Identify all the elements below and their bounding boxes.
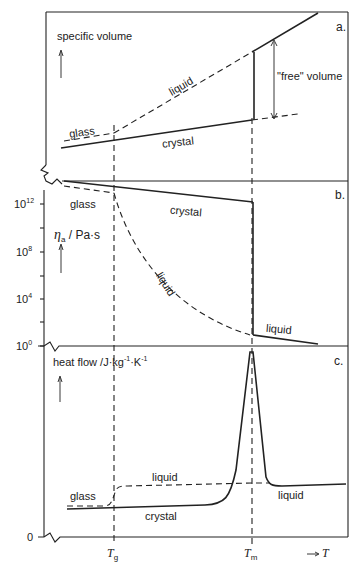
ytick-1e12: 1012 [14,198,34,210]
ytick-1e8: 108 [16,246,32,258]
panel-b-tag: b. [335,189,345,201]
panel-b-glass-label: glass [70,198,96,210]
panel-c-crystal-label: crystal [145,510,177,522]
free-volume-label: "free" volume [277,70,342,82]
panel-c-liquid-label: liquid [278,489,304,501]
ytick-1e4: 104 [16,293,32,305]
panel-a-ylabel: specific volume [57,30,132,42]
panel-c-y-zero: 0 [27,531,33,543]
panel-b-ylabel: ηa / Pa·s [54,229,100,241]
axis-break-icon [38,342,348,351]
liquid-line-b [253,335,318,344]
liquid-supercooled-a [114,52,252,133]
panel-c-tag: c. [334,355,343,367]
ytick-1e0: 100 [16,340,32,352]
temperature-axis-label: T [322,547,329,559]
panel-c-glass-label: glass [70,490,96,502]
panel-b-liquid-label: liquid [266,322,293,336]
liquid-line-a [252,13,318,52]
panel-a-tag: a. [336,21,346,33]
panel-c-liquid-dashed-label: liquid [152,471,178,483]
tg-label: Tg [107,547,118,559]
tm-label: Tm [244,547,257,559]
axis-break-icon [38,533,348,542]
glass-line-b [64,186,114,193]
panel-c-ylabel: heat flow /J·kg-1·K-1 [53,356,147,368]
axis-break-icon [41,165,62,184]
glass-liquid-curve-c [67,483,270,506]
crystal-curve-c [67,352,346,509]
